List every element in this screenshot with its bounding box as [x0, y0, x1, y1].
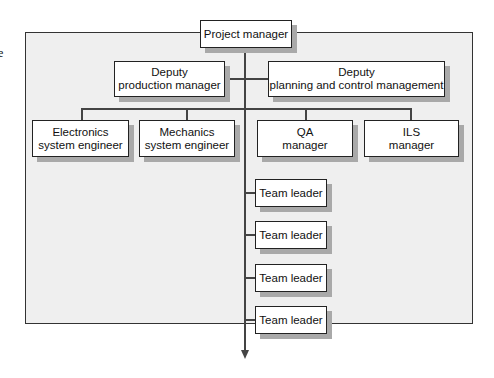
qa-drop-line — [305, 108, 307, 120]
team-leader-box: Team leader — [255, 306, 327, 334]
qa-manager-box: QA manager — [257, 120, 353, 157]
ils-drop-line — [410, 108, 412, 120]
box-label-line1: Mechanics — [160, 126, 215, 139]
team-leader-box: Team leader — [255, 264, 327, 292]
box-label-line2: manager — [282, 139, 327, 152]
mechanics-system-engineer-box: Mechanics system engineer — [139, 120, 235, 157]
box-label-line1: QA — [297, 126, 314, 139]
arrow-down-icon — [241, 350, 249, 359]
mechanics-drop-line — [186, 108, 188, 120]
team-leader-2-connector — [245, 234, 255, 236]
team-leader-1-connector — [245, 192, 255, 194]
box-label-line1: Electronics — [52, 126, 108, 139]
box-label: Team leader — [259, 187, 322, 200]
box-label-line2: production manager — [118, 79, 220, 92]
box-label: Team leader — [259, 229, 322, 242]
deputy-production-manager-box: Deputy production manager — [114, 61, 225, 97]
box-label-line2: planning and control management — [270, 79, 444, 92]
box-label: Team leader — [259, 272, 322, 285]
box-label: Team leader — [259, 314, 322, 327]
box-label-line2: manager — [389, 139, 434, 152]
deputy-planning-control-box: Deputy planning and control management — [268, 61, 445, 97]
box-label-line1: Deputy — [151, 66, 187, 79]
team-leader-4-connector — [245, 319, 255, 321]
functional-bus-line — [81, 108, 412, 110]
team-leader-box: Team leader — [255, 221, 327, 249]
deputy-connector-line — [225, 78, 268, 80]
main-spine-line — [244, 47, 246, 352]
box-label-line1: Deputy — [338, 66, 374, 79]
box-label: Project manager — [204, 28, 288, 41]
cropped-caption-fragment: e — [0, 46, 3, 61]
ils-manager-box: ILS manager — [364, 120, 459, 157]
electronics-drop-line — [81, 108, 83, 120]
project-manager-box: Project manager — [200, 20, 292, 48]
box-label-line2: system engineer — [145, 139, 229, 152]
team-leader-3-connector — [245, 277, 255, 279]
team-leader-box: Team leader — [255, 179, 327, 207]
electronics-system-engineer-box: Electronics system engineer — [32, 120, 129, 157]
box-label-line2: system engineer — [38, 139, 122, 152]
box-label-line1: ILS — [403, 126, 420, 139]
